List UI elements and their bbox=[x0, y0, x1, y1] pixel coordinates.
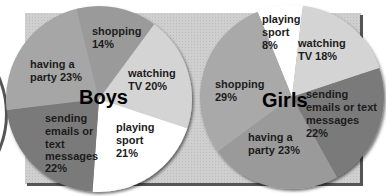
pie-charts: shopping 14% watching TV 20% playing spo… bbox=[0, 0, 386, 196]
boys-title: Boys bbox=[79, 86, 128, 108]
girls-title: Girls bbox=[262, 89, 308, 111]
girls-label-party: having a party 23% bbox=[248, 131, 300, 156]
boys-label-party: having a party 23% bbox=[30, 58, 82, 83]
